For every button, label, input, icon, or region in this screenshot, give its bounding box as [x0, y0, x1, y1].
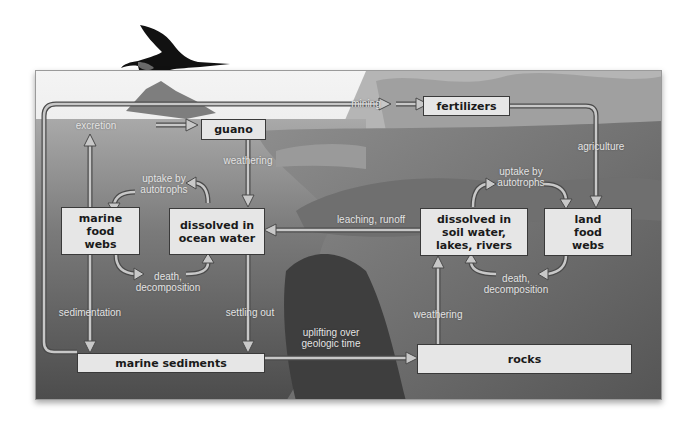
- guano-box: guano: [201, 119, 266, 140]
- uptake-marine-label: uptake by autotrophs: [134, 173, 194, 195]
- leaching-runoff-label: leaching, runoff: [326, 214, 416, 225]
- uplifting-label: uplifting over geologic time: [291, 327, 371, 349]
- weathering-bottom-label: weathering: [408, 309, 468, 320]
- dissolved-ocean-water-box: dissolved in ocean water: [169, 208, 265, 255]
- mining-label: mining: [341, 98, 391, 109]
- uptake-land-label: uptake by autotrophs: [491, 166, 551, 188]
- dissolved-soil-water-box: dissolved in soil water, lakes, rivers: [420, 208, 528, 256]
- diagram-panel: guano fertilizers marine food webs disso…: [35, 70, 662, 400]
- fertilizers-box: fertilizers: [423, 96, 510, 116]
- death-land-label: death, decomposition: [476, 273, 556, 295]
- weathering-top-label: weathering: [218, 155, 278, 166]
- land-food-webs-box: land food webs: [544, 208, 632, 256]
- sedimentation-label: sedimentation: [50, 307, 130, 318]
- settling-out-label: settling out: [218, 307, 282, 318]
- marine-food-webs-box: marine food webs: [61, 207, 140, 255]
- excretion-label: excretion: [66, 120, 126, 131]
- rocks-box: rocks: [417, 344, 632, 374]
- death-marine-label: death, decomposition: [128, 271, 208, 293]
- marine-sediments-box: marine sediments: [77, 353, 265, 373]
- agriculture-label: agriculture: [571, 141, 631, 152]
